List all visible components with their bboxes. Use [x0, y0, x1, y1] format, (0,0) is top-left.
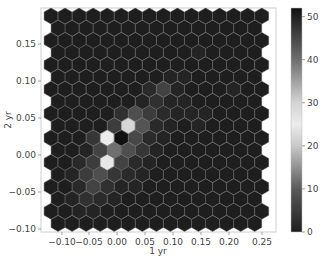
x-tick-label: −0.05 — [75, 237, 103, 247]
colorbar-tick-label: 20 — [307, 141, 319, 151]
colorbar-tick-label: 30 — [307, 98, 319, 108]
colorbar-tick-label: 50 — [307, 12, 319, 22]
colorbar-ticks: 01020304050 — [302, 12, 319, 237]
y-tick-label: 0.05 — [16, 113, 36, 123]
y-axis: 0.150.100.050.00−0.05−0.10 — [8, 39, 41, 234]
colorbar: 01020304050 — [291, 8, 319, 237]
y-tick-label: 0.15 — [16, 39, 36, 49]
colorbar-tick-label: 10 — [307, 184, 319, 194]
x-tick-label: −0.10 — [48, 237, 76, 247]
hexbin-cells — [44, 8, 269, 231]
y-tick-label: −0.10 — [8, 224, 36, 234]
colorbar-scale — [291, 8, 302, 232]
x-tick-label: 0.15 — [191, 237, 211, 247]
hexbin-chart: −0.10−0.050.000.050.100.150.200.25 0.150… — [0, 0, 324, 265]
x-axis-label: 1 yr — [149, 246, 167, 256]
x-tick-label: 0.00 — [107, 237, 127, 247]
x-tick-label: 0.25 — [252, 237, 272, 247]
x-tick-label: 0.20 — [219, 237, 239, 247]
y-tick-label: −0.05 — [8, 187, 36, 197]
colorbar-tick-label: 40 — [307, 55, 319, 65]
y-tick-label: 0.10 — [16, 76, 36, 86]
colorbar-tick-label: 0 — [307, 227, 313, 237]
x-axis: −0.10−0.050.000.050.100.150.200.25 — [48, 232, 272, 247]
y-tick-label: 0.00 — [16, 150, 36, 160]
y-axis-label: 2 yr — [3, 111, 13, 129]
